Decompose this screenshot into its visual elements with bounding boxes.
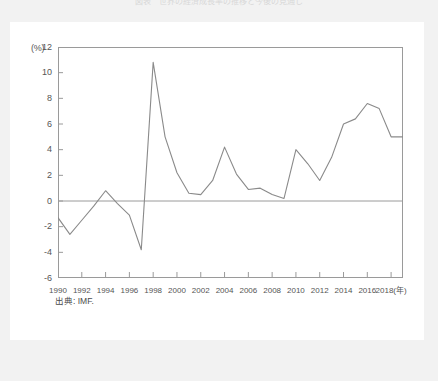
y-tick-label: 12 xyxy=(26,43,52,52)
x-tick-label: 2004 xyxy=(216,287,234,295)
y-tick-label: 4 xyxy=(26,145,52,154)
source-note: 出典: IMF. xyxy=(55,294,94,306)
x-tick-label: 2018(年) xyxy=(376,287,407,295)
x-tick-label: 1994 xyxy=(97,287,115,295)
x-tick-label: 2002 xyxy=(192,287,210,295)
x-tick-label: 1998 xyxy=(144,287,162,295)
chart-panel: (%) 121086420-2-4-6 19901992199419961998… xyxy=(10,22,424,340)
plot-frame xyxy=(59,48,403,278)
x-tick-label: 2000 xyxy=(168,287,186,295)
x-tick-label: 2008 xyxy=(263,287,281,295)
y-tick-label: 10 xyxy=(26,68,52,77)
x-tick-label: 2006 xyxy=(239,287,257,295)
line-chart-svg xyxy=(58,47,403,278)
x-tick-label: 2010 xyxy=(287,287,305,295)
y-tick-label: 2 xyxy=(26,171,52,180)
x-tick-label: 2016 xyxy=(358,287,376,295)
y-tick-label: 6 xyxy=(26,120,52,129)
y-tick-label: 8 xyxy=(26,94,52,103)
y-tick-label: -2 xyxy=(26,222,52,231)
y-tick-label: 0 xyxy=(26,197,52,206)
y-tick-label: -4 xyxy=(26,248,52,257)
x-tick-label: 2014 xyxy=(335,287,353,295)
figure-title: 図表 世界の経済成長率の推移と今後の見通し xyxy=(0,0,438,7)
x-tick-label: 2012 xyxy=(311,287,329,295)
plot-area xyxy=(58,47,403,278)
y-tick-label: -6 xyxy=(26,274,52,283)
x-tick-label: 1996 xyxy=(120,287,138,295)
